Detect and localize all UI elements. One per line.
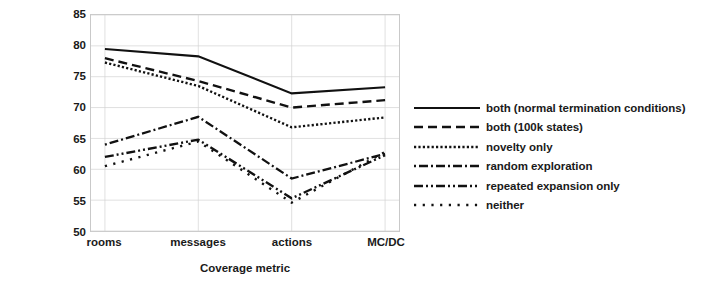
legend-label: novelty only bbox=[486, 141, 553, 153]
series-line-0 bbox=[105, 49, 385, 93]
y-axis-tick-labels: 8580757065605550 bbox=[52, 14, 86, 232]
chart-legend: both (normal termination conditions)both… bbox=[414, 98, 720, 215]
series-line-3 bbox=[105, 117, 385, 179]
x-axis-tick-label: rooms bbox=[86, 236, 121, 248]
x-axis-tick-label: MC/DC bbox=[367, 236, 405, 248]
x-axis-tick-label: actions bbox=[272, 236, 312, 248]
legend-item: neither bbox=[414, 196, 720, 216]
legend-item: both (normal termination conditions) bbox=[414, 98, 720, 118]
series-lines bbox=[91, 15, 399, 231]
y-axis-tick-label: 55 bbox=[73, 195, 86, 207]
legend-label: both (normal termination conditions) bbox=[486, 102, 685, 114]
legend-label: neither bbox=[486, 199, 524, 211]
legend-line-swatch bbox=[414, 180, 480, 192]
y-axis-tick-label: 65 bbox=[73, 133, 86, 145]
legend-label: repeated expansion only bbox=[486, 180, 620, 192]
legend-line-swatch bbox=[414, 141, 480, 153]
series-line-5 bbox=[105, 142, 385, 203]
legend-item: both (100k states) bbox=[414, 118, 720, 138]
chart-figure: Average coverage (%) 8580757065605550 ro… bbox=[0, 0, 726, 290]
y-axis-tick-label: 85 bbox=[73, 8, 86, 20]
legend-line-swatch bbox=[414, 102, 480, 114]
x-axis-tick-labels: roomsmessagesactionsMC/DC bbox=[90, 236, 400, 256]
legend-line-swatch bbox=[414, 199, 480, 211]
legend-item: repeated expansion only bbox=[414, 176, 720, 196]
y-axis-tick-label: 70 bbox=[73, 101, 86, 113]
series-line-1 bbox=[105, 58, 385, 107]
legend-label: random exploration bbox=[486, 160, 592, 172]
y-axis-tick-label: 75 bbox=[73, 70, 86, 82]
y-axis-tick-label: 50 bbox=[73, 226, 86, 238]
x-axis-title: Coverage metric bbox=[90, 262, 400, 274]
legend-item: random exploration bbox=[414, 157, 720, 177]
y-axis-tick-label: 60 bbox=[73, 164, 86, 176]
legend-line-swatch bbox=[414, 121, 480, 133]
x-axis-tick-label: messages bbox=[170, 236, 226, 248]
y-axis-tick-label: 80 bbox=[73, 39, 86, 51]
legend-item: novelty only bbox=[414, 137, 720, 157]
plot-area bbox=[90, 14, 400, 232]
legend-label: both (100k states) bbox=[486, 121, 583, 133]
legend-line-swatch bbox=[414, 160, 480, 172]
